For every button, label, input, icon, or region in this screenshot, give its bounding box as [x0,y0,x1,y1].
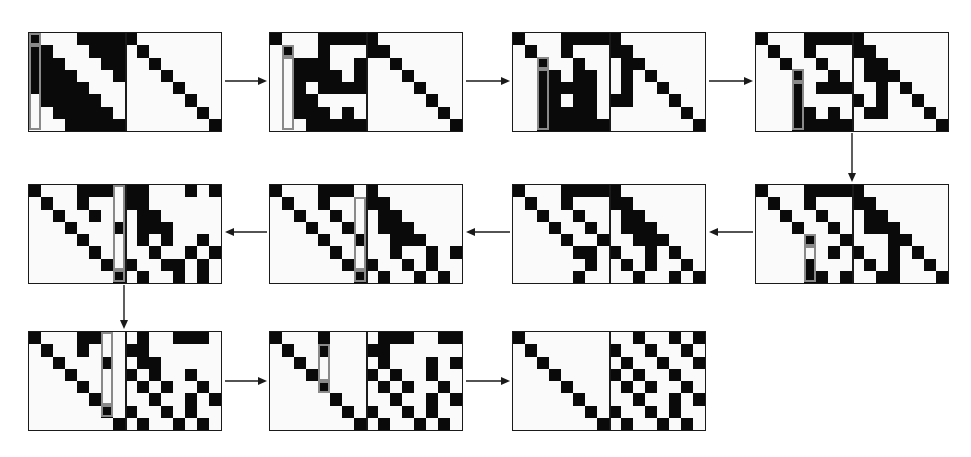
matrix-cell [840,210,852,222]
matrix-cell [792,197,804,209]
matrix-cell [354,70,366,82]
matrix-cell [585,107,597,119]
matrix-cell [149,357,161,369]
matrix-cell [864,45,876,57]
matrix-cell [185,210,197,222]
matrix-cell [816,210,828,222]
matrix-cell [900,82,912,94]
matrix-cell [438,271,450,283]
matrix-cell [900,70,912,82]
matrix-cell [609,332,621,344]
matrix-cell [378,119,390,131]
matrix-cell [573,33,585,45]
matrix-cell [282,45,294,57]
matrix-cell [149,70,161,82]
matrix-cell [573,119,585,131]
matrix-cell [513,332,525,344]
matrix-cell [318,271,330,283]
matrix-cell [149,418,161,430]
matrix-cell [29,332,41,344]
matrix-cell [585,197,597,209]
matrix-cell [185,344,197,356]
matrix-cell [876,33,888,45]
matrix-cell [633,222,645,234]
matrix-cell [549,344,561,356]
matrix-cell [780,94,792,106]
matrix-cell [585,94,597,106]
matrix-cell [888,82,900,94]
matrix-cell [609,107,621,119]
matrix-cell [597,45,609,57]
matrix-cell [209,418,221,430]
matrix-cell [936,45,948,57]
matrix-cell [780,45,792,57]
matrix-cell [537,357,549,369]
matrix-cell [378,107,390,119]
matrix-cell [390,271,402,283]
matrix-cell [270,332,282,344]
matrix-cell [330,45,342,57]
matrix-cell [89,332,101,344]
matrix-cell [390,418,402,430]
matrix-cell [681,107,693,119]
matrix-cell [537,197,549,209]
matrix-cell [402,119,414,131]
matrix-cell [513,271,525,283]
matrix-cell [113,185,125,197]
matrix-cell [342,344,354,356]
matrix-cell [402,94,414,106]
matrix-cell [65,271,77,283]
matrix-cell [633,418,645,430]
matrix-cell [29,344,41,356]
matrix-cell [621,94,633,106]
matrix-cell [876,185,888,197]
matrix-cell [450,259,462,271]
matrix-cell [426,185,438,197]
matrix-cell [585,393,597,405]
matrix-cell [633,45,645,57]
matrix-cell [876,45,888,57]
matrix-cell [294,271,306,283]
matrix-cell [657,271,669,283]
matrix-cell [645,33,657,45]
matrix-cell [137,94,149,106]
matrix-cell [125,33,137,45]
matrix-cell [366,418,378,430]
matrix-cell [816,259,828,271]
matrix-cell [330,406,342,418]
matrix-cell [270,406,282,418]
matrix-cell [29,107,41,119]
matrix-cell [900,119,912,131]
matrix-cell [852,222,864,234]
matrix-cell [282,344,294,356]
matrix-cell [621,393,633,405]
matrix-cell [657,119,669,131]
matrix-cell [924,246,936,258]
matrix-cell [125,393,137,405]
matrix-cell [89,369,101,381]
matrix-cell [414,332,426,344]
matrix-cell [282,357,294,369]
matrix-cell [693,418,705,430]
matrix-cell [669,234,681,246]
matrix-cell [804,33,816,45]
matrix-cell [561,70,573,82]
matrix-cell [804,222,816,234]
matrix-cell [792,33,804,45]
matrix-cell [525,107,537,119]
matrix-cell [41,58,53,70]
matrix-cell [936,271,948,283]
matrix-cell [657,369,669,381]
matrix-cell [306,381,318,393]
matrix-cell [149,33,161,45]
matrix-cell [282,418,294,430]
matrix-cell [681,82,693,94]
matrix-cell [549,357,561,369]
matrix-cell [125,234,137,246]
matrix-cell [354,259,366,271]
matrix-cell [828,107,840,119]
matrix-cell [41,82,53,94]
matrix-cell [29,210,41,222]
matrix-cell [29,393,41,405]
matrix-cell [537,234,549,246]
